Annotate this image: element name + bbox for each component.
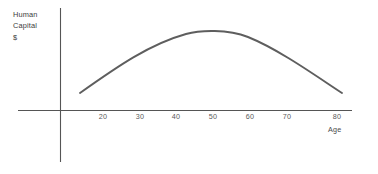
x-tick-label-70: 70 xyxy=(276,112,298,121)
x-tick-label-20: 20 xyxy=(92,112,114,121)
y-axis-label-line-2: Capital xyxy=(13,20,57,31)
y-axis-label: Human Capital $ xyxy=(13,9,57,43)
human-capital-figure: Human Capital $ 20 30 40 50 60 70 80 Age xyxy=(0,0,378,174)
y-axis-label-line-3: $ xyxy=(13,32,57,43)
x-tick-label-40: 40 xyxy=(165,112,187,121)
y-axis-label-line-1: Human xyxy=(13,9,57,20)
x-tick-label-60: 60 xyxy=(239,112,261,121)
x-tick-label-50: 50 xyxy=(202,112,224,121)
x-axis-label: Age xyxy=(328,125,341,134)
x-tick-label-30: 30 xyxy=(129,112,151,121)
human-capital-curve xyxy=(80,31,342,93)
x-tick-label-80: 80 xyxy=(326,112,348,121)
